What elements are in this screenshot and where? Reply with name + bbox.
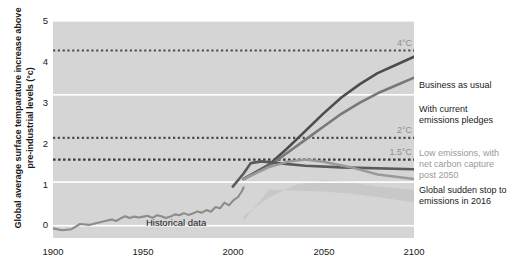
x-tick-1900: 1900 — [36, 246, 70, 257]
gridline-3 — [53, 94, 414, 96]
y-tick-5: 5 — [34, 15, 48, 26]
low-emissions-uncertainty-band — [244, 180, 414, 220]
annotation-sudden-stop-line1: Global sudden stop to — [419, 185, 507, 196]
x-tick-2000: 2000 — [216, 246, 250, 257]
annotation-current-pledges-line1: With current — [419, 104, 493, 115]
y-tick-4: 4 — [34, 56, 48, 67]
annotation-sudden-stop: Global sudden stop to emissions in 2016 — [419, 185, 507, 207]
y-tick-3: 3 — [34, 97, 48, 108]
refline-label-1p5c: 1.5°C — [389, 147, 412, 157]
y-tick-2: 2 — [34, 138, 48, 149]
series-group — [53, 57, 414, 231]
x-tick-2100: 2100 — [397, 246, 431, 257]
uncertainty-band-group — [244, 180, 414, 220]
annotation-low-emissions: Low emissions, with net carbon capture p… — [419, 148, 499, 181]
annotation-business-as-usual: Business as usual — [419, 80, 492, 91]
x-tick-2050: 2050 — [307, 246, 341, 257]
y-axis-label-container: Global average surface temparature incre… — [0, 0, 46, 250]
plot-area: 4°C 2°C 1.5°C Historical data — [53, 20, 414, 238]
y-tick-1: 1 — [34, 179, 48, 190]
plot-svg — [53, 20, 414, 238]
refline-label-4c: 4°C — [397, 38, 412, 48]
reference-lines-group — [53, 51, 414, 160]
y-tick-0: 0 — [34, 219, 48, 230]
annotation-low-emissions-line3: post 2050 — [419, 170, 499, 181]
annotation-low-emissions-line2: net carbon capture — [419, 159, 499, 170]
annotation-low-emissions-line1: Low emissions, with — [419, 148, 499, 159]
gridline-0 — [53, 225, 414, 227]
gridline-5 — [53, 20, 414, 22]
refline-label-2c: 2°C — [397, 125, 412, 135]
annotation-historical-data: Historical data — [146, 217, 206, 228]
annotation-current-pledges-line2: emissions pledges — [419, 115, 493, 126]
y-axis-label: Global average surface temparature incre… — [12, 6, 36, 230]
annotation-sudden-stop-line2: emissions in 2016 — [419, 196, 507, 207]
gridline-1 — [53, 181, 414, 183]
x-tick-1950: 1950 — [126, 246, 160, 257]
annotation-current-pledges: With current emissions pledges — [419, 104, 493, 126]
